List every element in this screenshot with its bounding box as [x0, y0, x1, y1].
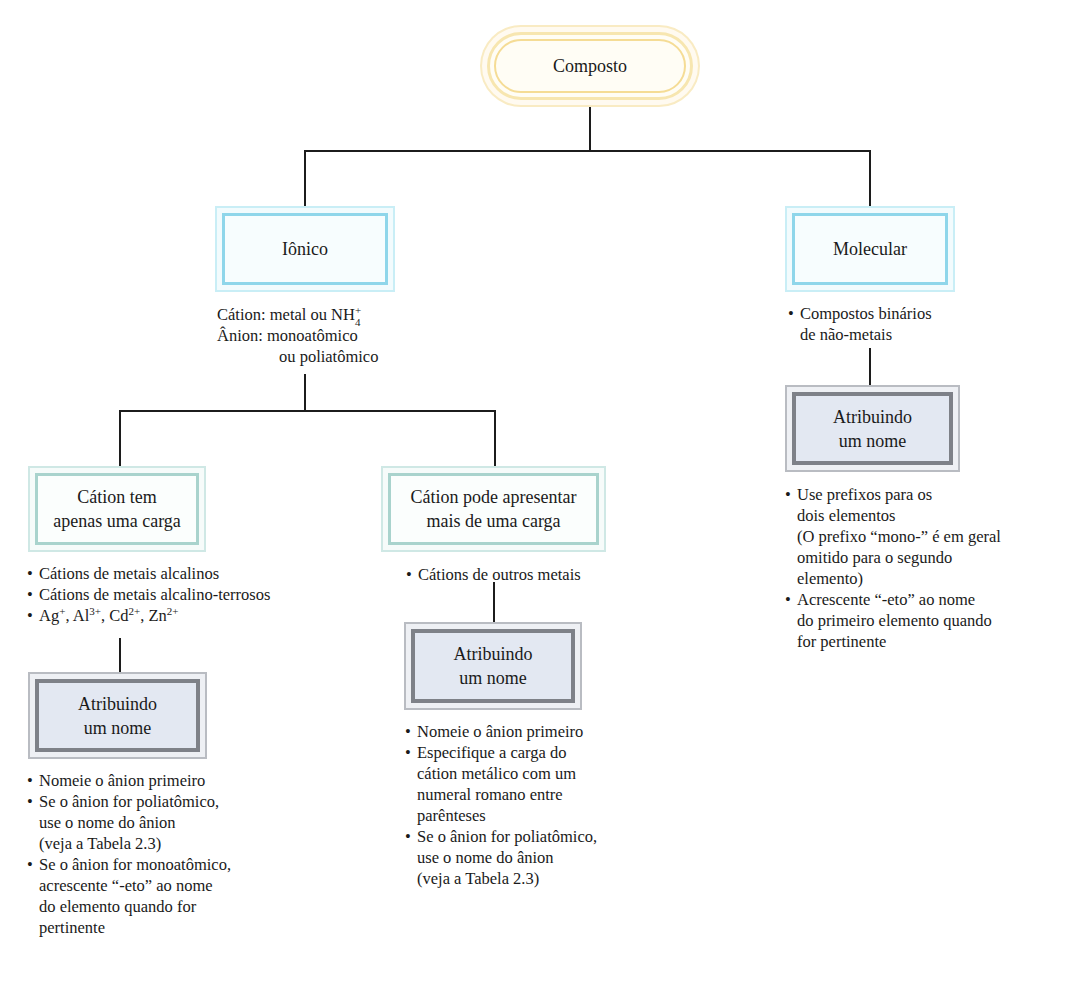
molecular-bullets: •Compostos bináriosde não-metais [788, 303, 932, 345]
list-item: • Se o ânion for poliatômico, use o nome… [27, 791, 231, 854]
connector-root-down [589, 100, 591, 151]
list-item: • Acrescente “-eto” ao nome do primeiro … [785, 589, 1001, 652]
mais-cargas-naming-bullets: • Nomeie o ânion primeiro • Especifique … [405, 721, 597, 889]
list-item: • Se o ânion for monoatômico, acrescente… [27, 854, 231, 938]
mais-cargas-bullets: •Cátions de outros metais [406, 564, 581, 585]
connector-to-mais-cargas [494, 410, 496, 466]
uma-carga-naming-bullets: • Nomeie o ânion primeiro • Se o ânion f… [27, 770, 231, 938]
connector-to-ionico [304, 150, 306, 206]
list-item: • Se o ânion for poliatômico, use o nome… [405, 826, 597, 889]
root-node-label: Composto [553, 56, 627, 77]
connector-ionico-horizontal [119, 410, 496, 412]
root-node-composto: Composto [487, 32, 693, 100]
node-ionico: Iônico [215, 206, 395, 292]
ionico-cation-line: Cátion: metal ou NH+4 [217, 304, 378, 325]
list-item: • Especifique a carga do cátion metálico… [405, 742, 597, 826]
list-item: • Nomeie o ânion primeiro [405, 721, 597, 742]
connector-root-horizontal [304, 150, 871, 152]
list-item-ions: • Ag+, Al3+, Cd2+, Zn2+ [27, 605, 270, 626]
node-mais-cargas-naming: Atribuindoum nome [404, 622, 582, 710]
list-item: •Cátions de outros metais [406, 564, 581, 585]
node-molecular: Molecular [785, 206, 955, 292]
connector-molecular-to-naming [869, 348, 871, 385]
connector-ionico-down [304, 374, 306, 411]
molecular-naming-bullets: • Use prefixos para os dois elementos (O… [785, 484, 1001, 652]
list-item: • Use prefixos para os dois elementos (O… [785, 484, 1001, 589]
ionico-anion-line-2: ou poliatômico [217, 346, 378, 367]
ammonium-charge: +4 [355, 310, 364, 320]
connector-uma-carga-to-naming [119, 638, 121, 672]
node-molecular-naming: Atribuindoum nome [785, 385, 960, 472]
connector-to-uma-carga [119, 410, 121, 466]
list-item: •Compostos bináriosde não-metais [788, 303, 932, 345]
node-uma-carga-naming: Atribuindoum nome [28, 672, 207, 759]
list-item: •Cátions de metais alcalino-terrosos [27, 584, 270, 605]
node-ionico-label: Iônico [282, 237, 328, 261]
list-item: • Nomeie o ânion primeiro [27, 770, 231, 791]
ionico-description: Cátion: metal ou NH+4 Ânion: monoatômico… [217, 304, 378, 367]
connector-to-molecular [869, 150, 871, 206]
uma-carga-bullets: •Cátions de metais alcalinos •Cátions de… [27, 563, 270, 626]
list-item: •Cátions de metais alcalinos [27, 563, 270, 584]
node-mais-cargas: Cátion pode apresentarmais de uma carga [381, 466, 606, 552]
node-molecular-label: Molecular [833, 237, 907, 261]
connector-mais-cargas-to-naming [493, 582, 495, 622]
node-uma-carga: Cátion temapenas uma carga [28, 466, 206, 552]
